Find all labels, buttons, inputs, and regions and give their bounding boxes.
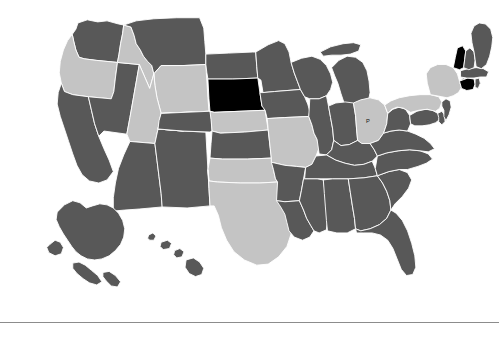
state-RI[interactable]: [475, 78, 480, 88]
footer-divider: [0, 322, 499, 323]
state-IA[interactable]: [260, 89, 310, 118]
state-WA[interactable]: [72, 20, 123, 63]
state-AK[interactable]: [47, 201, 125, 287]
state-WY[interactable]: [154, 65, 209, 114]
state-MA[interactable]: [461, 68, 489, 78]
state-NH[interactable]: [464, 48, 475, 70]
state-KS[interactable]: [210, 130, 271, 159]
us-choropleth-map: P: [0, 0, 499, 312]
state-SD[interactable]: [208, 78, 265, 112]
state-NE[interactable]: [210, 110, 268, 133]
map-svg: P: [0, 0, 499, 312]
states-layer: [47, 18, 493, 287]
state-ND[interactable]: [206, 52, 258, 79]
state-CO-main[interactable]: [158, 111, 212, 132]
page-root: P: [0, 0, 499, 340]
state-HI[interactable]: [148, 233, 204, 277]
state-NM[interactable]: [155, 129, 210, 208]
state-CT[interactable]: [459, 78, 475, 90]
state-OK[interactable]: [208, 158, 278, 183]
state-AZ[interactable]: [113, 141, 162, 211]
